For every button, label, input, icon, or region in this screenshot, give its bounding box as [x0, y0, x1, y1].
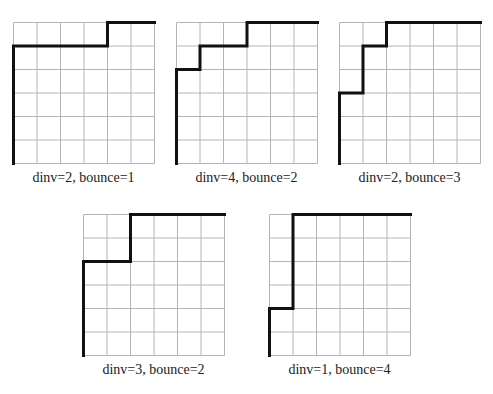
panel-caption: dinv=1, bounce=4	[240, 362, 440, 378]
grid-diagram	[269, 214, 411, 356]
panel-4: dinv=3, bounce=2	[83, 214, 224, 355]
panel-3: dinv=2, bounce=3	[339, 22, 480, 163]
grid-diagram	[176, 22, 318, 164]
panel-caption: dinv=2, bounce=3	[310, 170, 493, 186]
grid-diagram	[13, 22, 155, 164]
panel-5: dinv=1, bounce=4	[269, 214, 410, 355]
panel-2: dinv=4, bounce=2	[176, 22, 317, 163]
grid-diagram	[339, 22, 481, 164]
panel-caption: dinv=3, bounce=2	[54, 362, 254, 378]
panel-1: dinv=2, bounce=1	[13, 22, 154, 163]
grid-diagram	[83, 214, 225, 356]
